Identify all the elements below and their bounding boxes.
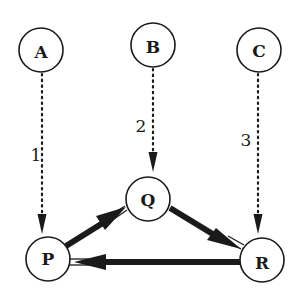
graph-diagram: 1 2 3 A B C Q P R [0,0,303,301]
arrowhead-icon [38,214,47,234]
node-p: P [26,237,70,281]
node-c: C [237,28,281,72]
arrowhead-icon [254,214,263,234]
node-label-p: P [42,249,55,269]
edge-c-to-r [254,74,263,234]
edge-label-1: 1 [31,145,42,165]
node-label-a: A [33,42,48,62]
node-q: Q [126,177,170,221]
node-label-c: C [252,41,266,61]
edge-label-2: 2 [136,116,147,136]
edge-r-to-p [70,254,240,270]
node-label-b: B [146,37,160,57]
edge-label-3: 3 [241,130,252,150]
arrowhead-icon [74,254,106,270]
node-b: B [131,23,175,67]
node-a: A [19,28,63,72]
edge-b-to-q [149,69,158,172]
node-r: R [240,238,284,282]
edge-q-to-r [170,208,244,249]
node-label-q: Q [141,190,156,210]
edge-p-to-q [66,206,127,246]
arrowhead-icon [149,152,158,172]
node-label-r: R [255,253,270,273]
